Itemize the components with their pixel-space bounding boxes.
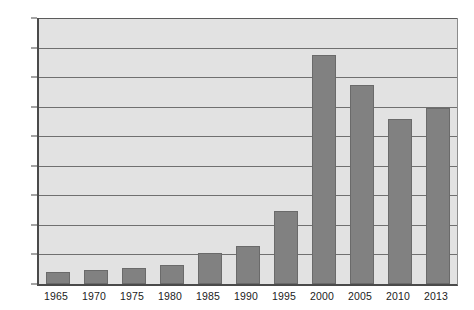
x-tick-label-1980: 1980 <box>151 288 189 308</box>
x-tick-label-1975: 1975 <box>113 288 151 308</box>
bar-slot <box>381 18 419 284</box>
x-tick-label-2013: 2013 <box>417 288 455 308</box>
bar-slot <box>419 18 457 284</box>
y-tick-mark <box>31 165 37 166</box>
x-tick-label-2005: 2005 <box>341 288 379 308</box>
bar-slot <box>191 18 229 284</box>
y-tick-mark <box>31 18 37 19</box>
bar-slot <box>267 18 305 284</box>
x-tick-label-1970: 1970 <box>75 288 113 308</box>
bar-slot <box>39 18 77 284</box>
plot-area <box>37 18 458 286</box>
bar-2010[interactable] <box>388 119 412 285</box>
bar-1985[interactable] <box>198 253 222 284</box>
y-tick-mark <box>31 106 37 107</box>
bar-2005[interactable] <box>350 85 374 284</box>
x-tick-label-2010: 2010 <box>379 288 417 308</box>
x-tick-label-1990: 1990 <box>227 288 265 308</box>
bar-2000[interactable] <box>312 55 336 284</box>
x-axis-tick-labels: 1965197019751980198519901995200020052010… <box>37 288 455 308</box>
bar-1995[interactable] <box>274 211 298 284</box>
y-tick-mark <box>31 77 37 78</box>
bar-slot <box>305 18 343 284</box>
bar-1965[interactable] <box>46 272 70 284</box>
bar-2013[interactable] <box>426 108 450 284</box>
bar-1975[interactable] <box>122 268 146 284</box>
y-tick-mark <box>31 284 37 285</box>
y-tick-mark <box>31 47 37 48</box>
bars-layer <box>39 18 457 284</box>
bar-1980[interactable] <box>160 265 184 285</box>
bar-slot <box>343 18 381 284</box>
bar-slot <box>153 18 191 284</box>
x-tick-label-1965: 1965 <box>37 288 75 308</box>
x-tick-label-2000: 2000 <box>303 288 341 308</box>
x-tick-label-1985: 1985 <box>189 288 227 308</box>
y-tick-mark <box>31 136 37 137</box>
bar-slot <box>115 18 153 284</box>
y-tick-mark <box>31 254 37 255</box>
bar-slot <box>229 18 267 284</box>
x-tick-label-1995: 1995 <box>265 288 303 308</box>
bar-1970[interactable] <box>84 270 108 284</box>
bar-slot <box>77 18 115 284</box>
y-tick-mark <box>31 195 37 196</box>
bar-1990[interactable] <box>236 246 260 284</box>
bar-chart: 450400350300250200150100500 196519701975… <box>0 0 474 310</box>
y-tick-mark <box>31 224 37 225</box>
